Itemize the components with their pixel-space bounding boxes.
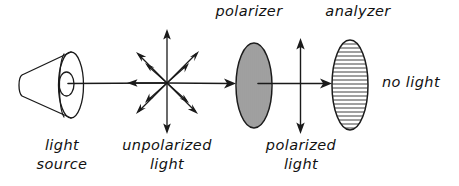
unpolarized-star-icon: [127, 29, 199, 134]
light-source-icon: [19, 52, 84, 118]
light-source-label-line2: source: [12, 156, 112, 173]
polarization-diagram: polarizer analyzer light source unpolari…: [0, 0, 459, 186]
light-source-label-line1: light: [12, 137, 112, 154]
no-light-label: no light: [382, 74, 458, 91]
analyzer-icon: [330, 40, 370, 130]
polarizer-label: polarizer: [199, 3, 299, 20]
polarized-light-label-line1: polarized: [254, 137, 348, 154]
beam-polarizer-to-analyzer: [258, 79, 332, 89]
beam-star-to-polarizer: [167, 79, 236, 89]
polarizer-icon: [236, 40, 272, 131]
analyzer-label: analyzer: [308, 3, 408, 20]
unpolarized-light-label-line1: unpolarized: [109, 137, 225, 154]
polarized-light-label-line2: light: [254, 156, 348, 173]
polarized-light-arrow-icon: [296, 38, 304, 134]
unpolarized-light-label-line2: light: [109, 156, 225, 173]
